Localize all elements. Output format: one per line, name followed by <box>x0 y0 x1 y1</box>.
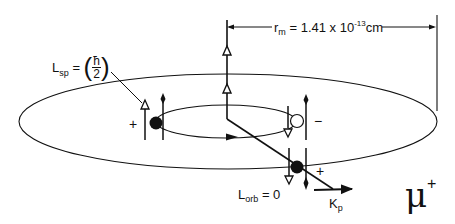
left-charge-sign: + <box>129 117 137 131</box>
muon-diagram-canvas <box>0 0 455 224</box>
spin-denominator: 2 <box>92 68 101 80</box>
right-moment-diamond-icon <box>304 94 309 105</box>
bottom-spin-open-arrow-down-icon <box>285 176 293 184</box>
spin-paren-open: ( <box>84 52 93 82</box>
axis-open-arrow-top-icon <box>223 46 231 55</box>
right-charge-sign: − <box>314 114 322 128</box>
momentum-label: Kp <box>329 197 343 213</box>
axis-open-arrow-mid-icon <box>223 84 231 93</box>
spin-label-pointer-line <box>111 72 142 103</box>
orbital-equals: = <box>262 187 270 202</box>
radius-arrow-right-icon <box>429 25 436 30</box>
left-spin-open-arrow-icon <box>141 100 149 109</box>
right-spin-open-arrow-down-icon <box>284 129 292 137</box>
spin-subscript: sp <box>59 68 69 78</box>
radius-label: rm = 1.41 x 10-13cm <box>274 20 383 37</box>
left-particle-solid <box>150 117 163 130</box>
muon-label: μ+ <box>405 176 436 212</box>
bottom-particle-solid <box>291 161 304 174</box>
radius-exponent: -13 <box>354 19 366 28</box>
spin-equals: = <box>72 60 80 75</box>
muon-charge: + <box>427 175 436 192</box>
bottom-charge-sign: + <box>316 164 324 178</box>
inner-orbit-ellipse <box>156 105 296 138</box>
radius-arrow-left-icon <box>227 25 234 30</box>
orbit-direction-arrow-icon <box>226 134 238 141</box>
momentum-subscript: p <box>338 203 343 213</box>
hbar-numerator: ħ <box>92 55 101 68</box>
radius-subscript: m <box>278 27 286 37</box>
radius-unit: cm <box>366 20 383 35</box>
muon-symbol: μ <box>405 175 427 215</box>
momentum-kp-line <box>314 189 352 190</box>
radius-value: = 1.41 x 10 <box>289 20 354 35</box>
left-moment-diamond-icon <box>161 93 166 104</box>
spin-label: Lsp = (ħ2) <box>52 54 110 80</box>
spin-fraction: ħ2 <box>92 55 101 80</box>
momentum-symbol: K <box>329 196 338 211</box>
bottom-moment-diamond-icon <box>304 177 309 190</box>
orbital-value: 0 <box>273 187 280 202</box>
spin-paren-close: ) <box>101 52 110 82</box>
right-particle-open <box>291 115 304 128</box>
orbital-label: Lorb = 0 <box>238 188 280 204</box>
orbital-subscript: orb <box>245 194 258 204</box>
